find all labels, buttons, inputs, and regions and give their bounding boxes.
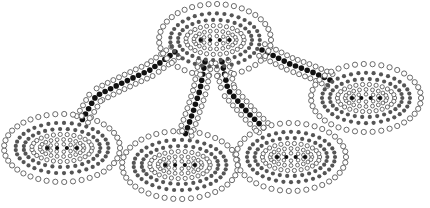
hollow-dot — [120, 160, 125, 165]
gray-dot — [66, 127, 70, 131]
hollow-dot — [247, 132, 252, 137]
gray-dot — [304, 131, 308, 135]
hollow-dot — [314, 161, 318, 165]
hollow-dot — [238, 141, 243, 146]
hollow-dot — [261, 184, 266, 189]
hollow-dot — [253, 12, 258, 17]
black-dot — [293, 63, 299, 69]
hollow-dot — [253, 62, 258, 67]
hollow-dot — [215, 34, 219, 38]
hollow-dot — [206, 73, 211, 78]
gray-dot — [207, 64, 211, 68]
gray-dot — [32, 126, 36, 130]
gray-dot — [233, 55, 237, 59]
gray-dot — [246, 159, 250, 163]
gray-dot — [140, 149, 144, 153]
hollow-dot — [139, 79, 144, 84]
hollow-dot — [292, 141, 296, 145]
gray-dot — [80, 162, 84, 166]
hollow-dot — [387, 65, 392, 70]
black-dot — [97, 91, 103, 97]
hollow-dot — [196, 168, 200, 172]
gray-dot — [382, 79, 386, 83]
hollow-dot — [39, 136, 43, 140]
gray-dot — [157, 185, 161, 189]
hollow-dot — [242, 136, 247, 141]
hollow-dot — [196, 152, 200, 156]
gray-dot — [392, 115, 396, 119]
hollow-dot — [189, 94, 194, 99]
black-dot — [256, 121, 262, 127]
gray-dot — [100, 134, 104, 138]
hollow-dot — [190, 70, 195, 75]
gray-dot — [190, 22, 194, 26]
hollow-dot — [215, 42, 219, 46]
hollow-dot — [337, 170, 342, 175]
hollow-dot — [341, 144, 346, 149]
hollow-dot — [354, 83, 358, 87]
gray-dot — [186, 17, 190, 21]
hollow-dot — [246, 9, 251, 14]
hollow-dot — [68, 138, 72, 142]
hollow-dot — [344, 127, 349, 132]
hollow-dot — [51, 159, 55, 163]
hollow-dot — [21, 171, 26, 176]
hollow-dot — [364, 93, 368, 97]
hollow-dot — [44, 152, 48, 156]
hollow-dot — [198, 50, 202, 54]
gray-dot — [144, 154, 148, 158]
hollow-dot — [78, 135, 82, 139]
hollow-dot — [301, 60, 306, 65]
node-left — [2, 111, 123, 184]
gray-dot — [261, 174, 265, 178]
hollow-dot — [299, 168, 303, 172]
gray-dot — [181, 56, 185, 60]
hollow-dot — [268, 37, 273, 42]
hollow-dot — [224, 25, 228, 29]
hollow-dot — [268, 59, 273, 64]
hollow-dot — [248, 104, 253, 109]
hollow-dot — [301, 148, 305, 152]
hollow-dot — [339, 90, 343, 94]
gray-dot — [253, 155, 257, 159]
black-dot — [231, 94, 237, 100]
black-dot — [89, 101, 95, 107]
hollow-dot — [201, 98, 206, 103]
hub-node — [157, 1, 274, 78]
gray-dot — [136, 153, 140, 157]
hollow-dot — [3, 153, 8, 158]
hollow-dot — [219, 139, 224, 144]
gray-dot — [204, 177, 208, 181]
hollow-dot — [230, 50, 234, 54]
gray-dot — [247, 46, 251, 50]
gray-dot — [168, 181, 172, 185]
hollow-dot — [347, 91, 351, 95]
hollow-dot — [305, 166, 309, 170]
gray-dot — [258, 38, 262, 42]
gray-dot — [400, 96, 404, 100]
hollow-dot — [133, 184, 138, 189]
gray-dot — [324, 151, 328, 155]
hollow-dot — [205, 85, 210, 90]
hollow-dot — [370, 129, 375, 134]
black-dot — [275, 155, 279, 159]
hollow-dot — [329, 69, 334, 74]
hollow-dot — [115, 156, 120, 161]
gray-dot — [95, 153, 99, 157]
hollow-dot — [392, 93, 396, 97]
hollow-dot — [254, 181, 259, 186]
hollow-dot — [211, 52, 215, 56]
gray-dot — [243, 49, 247, 53]
hollow-dot — [187, 100, 192, 105]
hollow-dot — [179, 123, 184, 128]
black-dot — [189, 113, 195, 119]
hollow-dot — [83, 155, 87, 159]
hollow-dot — [239, 112, 244, 117]
gray-dot — [22, 160, 26, 164]
hollow-dot — [158, 46, 163, 51]
hollow-dot — [133, 81, 138, 86]
hollow-dot — [115, 135, 120, 140]
gray-dot — [39, 123, 43, 127]
hollow-dot — [224, 51, 228, 55]
hollow-dot — [208, 35, 212, 39]
